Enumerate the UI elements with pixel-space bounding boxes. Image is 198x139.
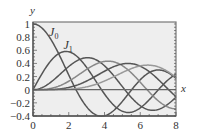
x-tick-label: 2 [66, 119, 72, 131]
y-tick-label: 0 [25, 84, 31, 96]
x-tick-label: 8 [173, 119, 179, 131]
y-tick-label: 1 [25, 18, 31, 30]
y-axis-label: y [29, 4, 35, 16]
x-tick-label: 0 [30, 119, 36, 131]
y-tick-label: 0.6 [16, 44, 30, 56]
bessel-chart: −0.4−0.200.20.40.60.81 02468 y x J0J1 [0, 0, 198, 139]
x-tick-label: 6 [138, 119, 144, 131]
x-tick-label: 4 [102, 119, 108, 131]
x-axis-label: x [180, 82, 186, 94]
y-tick-label: 0.2 [16, 71, 30, 83]
y-tick-label: 0.4 [16, 57, 30, 69]
y-tick-label: −0.2 [10, 97, 30, 109]
y-axis: −0.4−0.200.20.40.60.81 [10, 18, 37, 122]
y-tick-label: −0.4 [10, 110, 30, 122]
y-tick-label: 0.8 [16, 31, 30, 43]
